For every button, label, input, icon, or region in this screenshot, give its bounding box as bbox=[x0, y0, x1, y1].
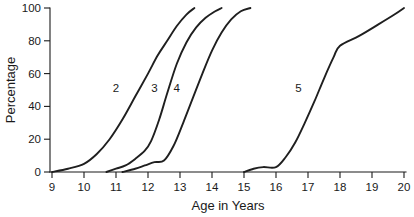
series-label-5: 5 bbox=[295, 82, 301, 94]
x-axis-ticks bbox=[52, 172, 404, 178]
y-axis-ticks bbox=[44, 8, 50, 172]
series-line-5 bbox=[244, 8, 404, 172]
x-tick-label-14: 14 bbox=[206, 181, 219, 193]
x-tick-label-16: 16 bbox=[270, 181, 283, 193]
y-axis-group: 020406080100 Percentage bbox=[3, 2, 50, 178]
y-tick-label-0: 0 bbox=[35, 166, 41, 178]
x-axis-group: 91011121314151617181920 Age in Years bbox=[49, 172, 411, 213]
x-tick-label-13: 13 bbox=[174, 181, 187, 193]
series-line-3 bbox=[106, 8, 221, 172]
y-tick-label-80: 80 bbox=[28, 35, 41, 47]
x-tick-label-9: 9 bbox=[49, 181, 55, 193]
chart-canvas: 020406080100 Percentage 9101112131415161… bbox=[0, 0, 414, 217]
y-tick-label-20: 20 bbox=[28, 133, 41, 145]
x-tick-label-18: 18 bbox=[334, 181, 347, 193]
y-axis-tick-labels: 020406080100 bbox=[22, 2, 41, 178]
x-tick-label-15: 15 bbox=[238, 181, 251, 193]
series-lines-group bbox=[52, 8, 404, 172]
y-tick-label-100: 100 bbox=[22, 2, 41, 14]
x-tick-label-11: 11 bbox=[110, 181, 122, 193]
series-label-3: 3 bbox=[151, 82, 157, 94]
series-label-2: 2 bbox=[113, 82, 119, 94]
x-tick-label-10: 10 bbox=[78, 181, 91, 193]
y-tick-label-40: 40 bbox=[28, 100, 41, 112]
y-axis-title: Percentage bbox=[3, 57, 18, 124]
series-line-4 bbox=[122, 8, 250, 172]
y-tick-label-60: 60 bbox=[28, 68, 41, 80]
x-axis-title: Age in Years bbox=[191, 198, 265, 213]
x-tick-label-19: 19 bbox=[366, 181, 379, 193]
series-label-4: 4 bbox=[174, 82, 181, 94]
x-tick-label-12: 12 bbox=[142, 181, 155, 193]
x-tick-label-17: 17 bbox=[302, 181, 315, 193]
x-tick-label-20: 20 bbox=[398, 181, 411, 193]
x-axis-tick-labels: 91011121314151617181920 bbox=[49, 181, 411, 193]
chart-figure: 020406080100 Percentage 9101112131415161… bbox=[0, 0, 414, 217]
